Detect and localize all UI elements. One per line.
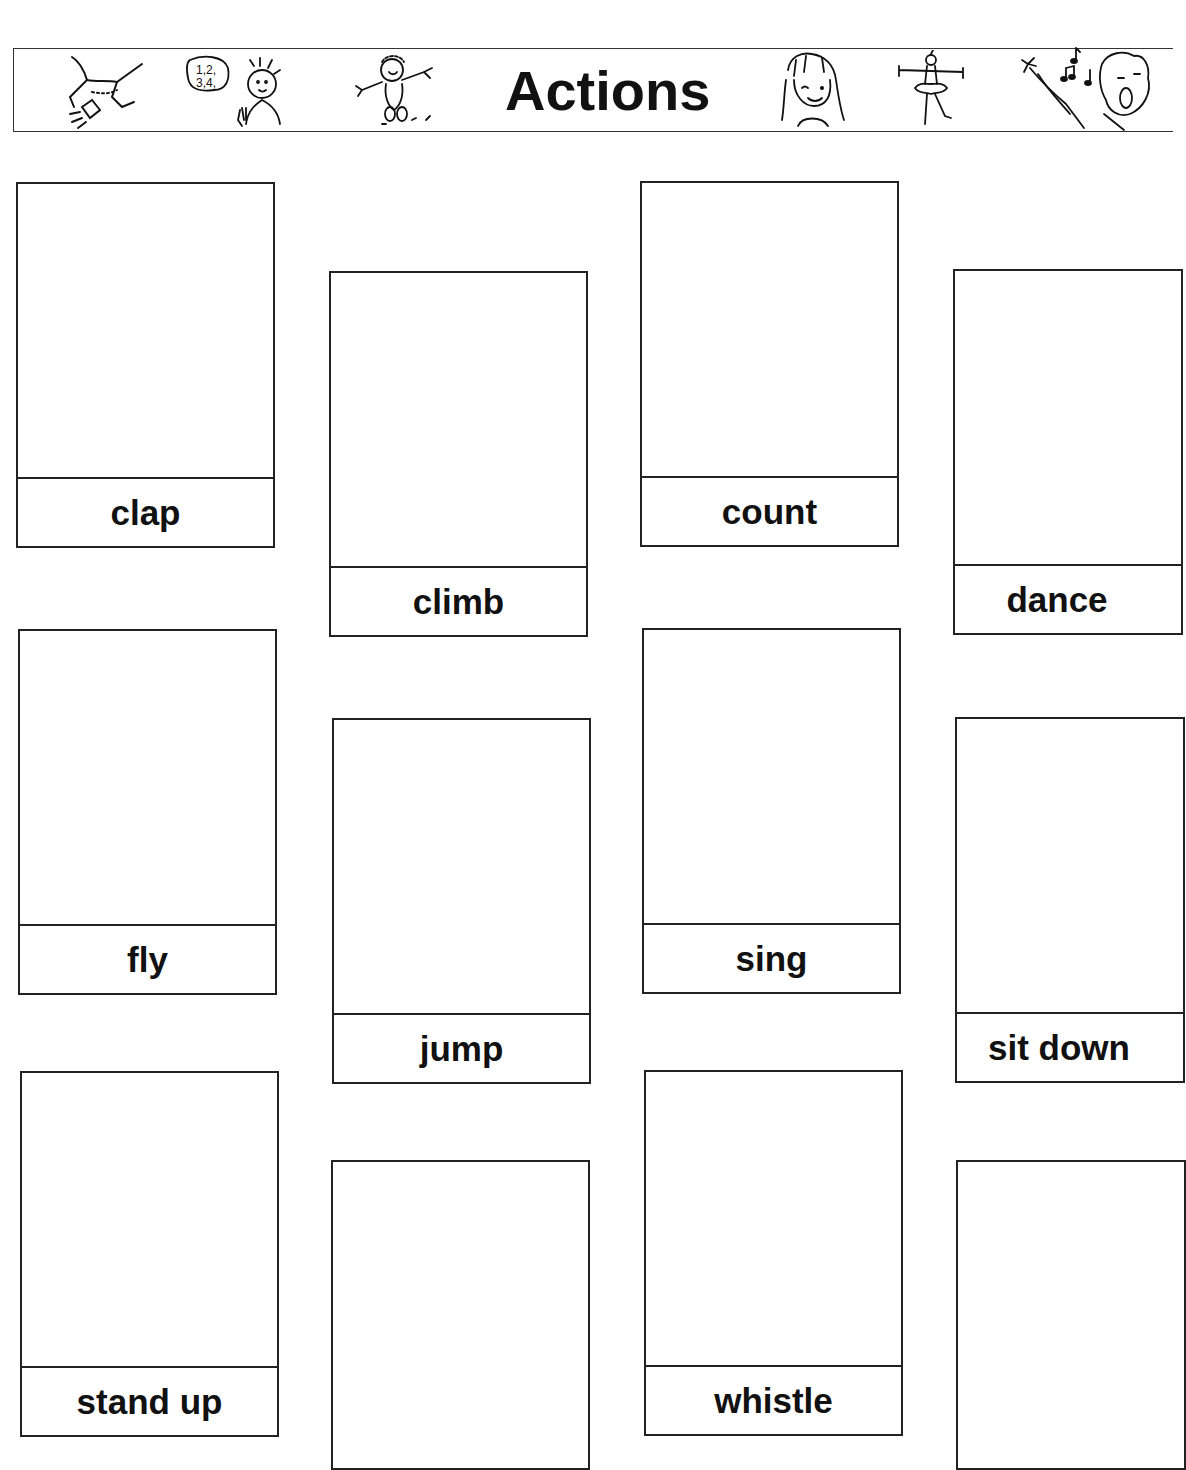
action-card-fly: fly bbox=[18, 629, 277, 995]
action-card-sing: sing bbox=[642, 628, 901, 994]
action-card-partial bbox=[956, 1160, 1186, 1470]
action-card-count: count bbox=[640, 181, 899, 547]
singing-boy-icon bbox=[1014, 44, 1161, 132]
card-label: jump bbox=[334, 1013, 589, 1082]
ballerina-icon bbox=[893, 50, 969, 128]
card-label: fly bbox=[20, 924, 275, 993]
svg-text:3,4,: 3,4, bbox=[196, 76, 216, 90]
svg-text:1,2,: 1,2, bbox=[196, 63, 216, 77]
whistling-girl-icon bbox=[778, 50, 848, 128]
card-label: climb bbox=[331, 566, 586, 635]
action-card-dance: dance bbox=[953, 269, 1183, 635]
jumping-boy-icon bbox=[352, 54, 440, 126]
card-label: sit down bbox=[957, 1012, 1183, 1081]
action-card-clap: clap bbox=[16, 182, 275, 548]
clap-figure-icon bbox=[62, 52, 154, 130]
card-label: whistle bbox=[646, 1365, 901, 1434]
action-card-stand-up: stand up bbox=[20, 1071, 279, 1437]
card-label: stand up bbox=[22, 1366, 277, 1435]
counting-boy-icon: 1,2, 3,4, bbox=[184, 54, 286, 130]
card-label: count bbox=[642, 476, 897, 545]
card-label: clap bbox=[18, 477, 273, 546]
action-card-climb: climb bbox=[329, 271, 588, 637]
action-card-jump: jump bbox=[332, 718, 591, 1084]
card-label: dance bbox=[955, 564, 1181, 633]
action-card-sit-down: sit down bbox=[955, 717, 1185, 1083]
action-card-partial bbox=[331, 1160, 590, 1470]
page-title: Actions bbox=[505, 58, 710, 123]
card-label: sing bbox=[644, 923, 899, 992]
action-card-whistle: whistle bbox=[644, 1070, 903, 1436]
